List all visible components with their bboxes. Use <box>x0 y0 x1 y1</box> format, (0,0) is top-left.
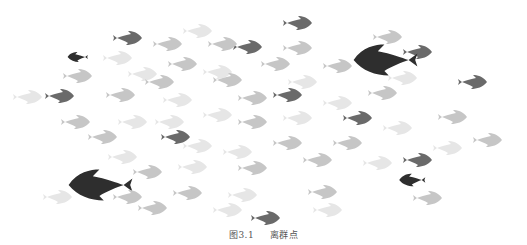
fish-icon <box>438 110 467 124</box>
fish-icon <box>343 111 372 125</box>
fish-icon <box>88 130 117 144</box>
fish-icon <box>283 16 312 30</box>
fish-icon <box>313 203 342 217</box>
fish-icon <box>383 121 412 135</box>
fish-icon <box>273 88 302 102</box>
fish-icon <box>251 211 280 225</box>
fish-icon <box>168 57 197 71</box>
fish-icon <box>363 156 392 170</box>
fish-icon <box>283 111 312 125</box>
fish-icon <box>273 136 302 150</box>
outlier-fish-icon <box>354 45 418 76</box>
fish-icon <box>113 190 142 204</box>
fish-icon <box>108 150 137 164</box>
fish-icon <box>106 88 135 102</box>
fish-icon <box>63 69 92 83</box>
fish-icon <box>238 161 267 175</box>
figure-number: 图3.1 <box>229 230 254 240</box>
fish-icon <box>173 186 202 200</box>
fish-icon <box>223 145 252 159</box>
fish-icon <box>43 190 72 204</box>
fish-icon <box>403 153 432 167</box>
fish-icon <box>183 24 212 38</box>
fish-icon <box>155 115 184 129</box>
fish-icon <box>178 160 207 174</box>
fish-icon <box>323 96 352 110</box>
fish-icon <box>213 203 242 217</box>
fish-icon <box>333 136 362 150</box>
fish-icon <box>261 57 290 71</box>
fish-icon <box>113 31 142 45</box>
fish-icon <box>163 93 192 107</box>
fish-icon <box>183 139 212 153</box>
fish-icon <box>403 45 432 59</box>
fish-icon <box>238 91 267 105</box>
fish-icon <box>13 90 42 104</box>
fish-icon <box>118 115 147 129</box>
fish-icon <box>308 185 337 199</box>
fish-icon <box>303 153 332 167</box>
fish-icon <box>128 67 157 81</box>
fish-icon <box>413 191 442 205</box>
figure-title: 离群点 <box>270 230 299 240</box>
fish-icon <box>208 37 237 51</box>
fish-icon <box>61 115 90 129</box>
fish-icon <box>228 188 257 202</box>
fish-icon <box>458 75 487 89</box>
fish-icon <box>323 59 352 73</box>
fish-icon <box>203 108 232 122</box>
fish-icon <box>288 75 317 89</box>
fish-icon <box>368 86 397 100</box>
fish-icon <box>233 40 262 54</box>
fish-icon <box>45 89 74 103</box>
fish-icon <box>388 71 417 85</box>
outlier-fish-icon <box>399 174 425 187</box>
fish-icon <box>473 133 502 147</box>
fish-icon <box>133 165 162 179</box>
fish-icon <box>161 130 190 144</box>
fish-icon <box>283 41 312 55</box>
fish-icon <box>153 37 182 51</box>
fish-icon <box>103 51 132 65</box>
fish-icon <box>373 30 402 44</box>
fish-icon <box>433 141 462 155</box>
figure-caption: 图3.1 离群点 <box>0 228 527 241</box>
outlier-fish-diagram <box>0 0 527 225</box>
fish-icon <box>238 115 267 129</box>
fish-icon <box>138 201 167 215</box>
outlier-fish-icon <box>68 52 88 62</box>
